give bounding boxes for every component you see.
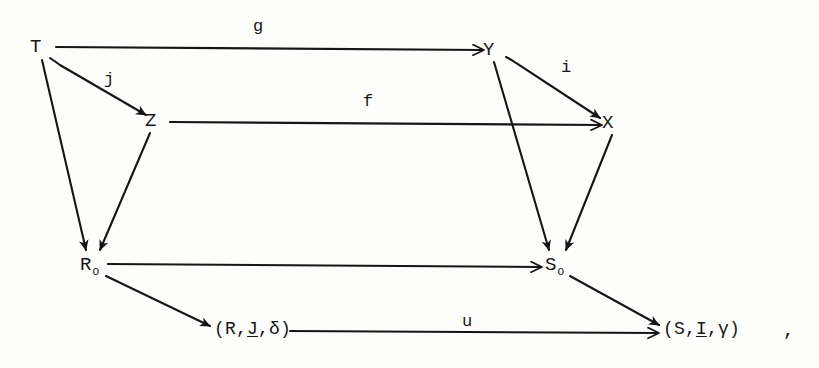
tuple-right-sep1: , bbox=[685, 319, 696, 339]
paren-close: ) bbox=[280, 319, 291, 339]
object-label-R0: Ro bbox=[80, 256, 100, 278]
object-label-X: X bbox=[602, 114, 614, 133]
arrow-j bbox=[50, 58, 146, 115]
object-label-R-J-delta: (R,J,δ) bbox=[214, 320, 291, 338]
arrow-R0-to-S0 bbox=[108, 264, 541, 267]
object-Y-text: Y bbox=[483, 39, 495, 61]
object-R0-subscript-text: o bbox=[92, 265, 100, 279]
arrow-f bbox=[170, 122, 601, 125]
object-X-text: X bbox=[602, 112, 614, 134]
arrow-label-j: j bbox=[104, 71, 114, 88]
paren-close: ) bbox=[729, 319, 740, 339]
arrow-R0-to-RJdelta bbox=[106, 276, 210, 326]
tuple-right-sep2: , bbox=[707, 319, 718, 339]
tuple-right-first: S bbox=[674, 319, 685, 339]
tuple-left-last: δ bbox=[269, 319, 280, 339]
arrow-T-to-R0 bbox=[42, 60, 86, 250]
arrow-S0-to-SIgamma bbox=[570, 276, 659, 325]
object-S0-subscript-text: o bbox=[557, 265, 565, 279]
tuple-right-underlined: I bbox=[696, 319, 707, 339]
arrow-label-f: f bbox=[363, 93, 373, 110]
arrow-X-to-S0 bbox=[566, 135, 612, 250]
object-T-text: T bbox=[30, 36, 42, 58]
paren-open: ( bbox=[663, 319, 674, 339]
arrow-label-g: g bbox=[253, 18, 263, 35]
object-label-T: T bbox=[30, 38, 42, 57]
arrow-i bbox=[506, 57, 600, 118]
object-label-S0: So bbox=[545, 256, 565, 278]
trailing-comma: , bbox=[783, 322, 794, 341]
arrow-g bbox=[56, 47, 483, 50]
tuple-left-first: R bbox=[225, 319, 236, 339]
object-label-Z: Z bbox=[145, 112, 157, 131]
arrow-Y-to-S0 bbox=[494, 62, 549, 250]
tuple-left-sep2: , bbox=[258, 319, 269, 339]
arrow-label-u: u bbox=[462, 313, 472, 330]
object-Z-text: Z bbox=[145, 110, 157, 132]
commutative-diagram-figure: T Z Y X Ro So (R,J,δ) (S,I,γ) g f j i u … bbox=[0, 0, 819, 368]
arrow-Z-to-R0 bbox=[100, 133, 150, 250]
object-R0-base-text: R bbox=[80, 254, 92, 276]
paren-open: ( bbox=[214, 319, 225, 339]
object-S0-base-text: S bbox=[545, 254, 557, 276]
tuple-left-sep1: , bbox=[236, 319, 247, 339]
diagram-canvas bbox=[0, 0, 819, 368]
arrow-u bbox=[290, 331, 658, 333]
object-label-Y: Y bbox=[483, 41, 495, 60]
tuple-right-last: γ bbox=[718, 319, 729, 339]
tuple-left-underlined: J bbox=[247, 319, 258, 339]
arrow-label-i: i bbox=[561, 59, 571, 76]
object-label-S-I-gamma: (S,I,γ) bbox=[663, 320, 740, 338]
